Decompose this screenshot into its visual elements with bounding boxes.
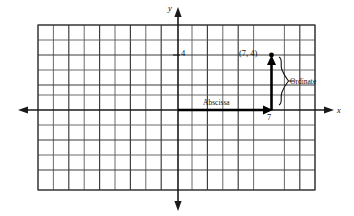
grid-border [38, 25, 315, 190]
y-tick-label-4: 4 [181, 49, 185, 58]
y-axis-label: y [168, 4, 172, 13]
ordinate-vector [267, 55, 276, 110]
grid-vertical-lines [38, 25, 315, 190]
figure-canvas [0, 0, 354, 216]
grid-horizontal-lines [38, 25, 315, 190]
abscissa-label: Abscissa [203, 99, 230, 107]
plotted-point-7-4 [269, 53, 274, 58]
ordinate-label: Ordinate [290, 78, 316, 86]
point-coordinate-label: (7, 4) [239, 49, 257, 58]
x-axis-label: x [337, 106, 341, 115]
coordinate-plane-figure: y x 4 7 (7, 4) Abscissa Ordinate [0, 0, 354, 216]
x-axis [18, 106, 334, 113]
x-tick-label-7: 7 [267, 113, 271, 122]
